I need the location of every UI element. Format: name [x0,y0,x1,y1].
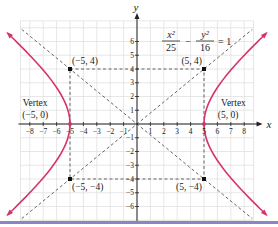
point-label-5-neg4: (5, −4) [176,182,202,193]
x-tick-label: −7 [39,127,47,136]
vertex-left-title: Vertex [23,98,48,108]
y-tick-label: 5 [130,51,134,60]
x-tick-label: 3 [175,127,179,136]
equation-x-numerator: x² [166,29,175,40]
x-tick-label: −6 [53,127,61,136]
x-tick-label: 1 [149,127,153,136]
bottom-divider [0,221,278,224]
y-tick-label: −5 [126,188,134,197]
x-tick-label: 4 [189,127,193,136]
y-tick-label: 2 [130,92,134,101]
point-label-5-4: (5, 4) [181,56,202,67]
corner-point [202,177,206,181]
x-tick-label: −2 [106,127,114,136]
x-tick-label: −5 [66,127,74,136]
vertex-left-coords: (−5, 0) [22,110,48,121]
x-tick-label: −8 [26,127,34,136]
equation-x-denominator: 25 [166,42,176,53]
hyperbola-figure: xy −8−7−6−5−4−3−2−112345678654321−1−2−3−… [0,0,278,227]
x-tick-label: 8 [242,127,246,136]
point-label-neg5-neg4: (−5, −4) [72,182,103,193]
equation-rhs: = 1 [218,36,231,47]
y-tick-label: −6 [126,202,134,211]
y-tick-label: −2 [126,147,134,156]
vertex-point [202,122,206,126]
y-tick-label: 1 [130,106,134,115]
x-tick-label: −3 [93,127,101,136]
point-label-neg5-4: (−5, 4) [72,56,98,67]
equation-y-numerator: y² [200,29,209,40]
y-tick-label: 4 [130,65,134,74]
y-tick-label: 3 [130,78,134,87]
vertex-point [68,122,72,126]
corner-point [68,177,72,181]
y-tick-label: −4 [126,175,134,184]
x-axis-arrow-icon [257,122,263,127]
corner-point [202,67,206,71]
y-axis-arrow-icon [135,13,140,19]
hyperbola-plot: xy −8−7−6−5−4−3−2−112345678654321−1−2−3−… [0,0,278,227]
y-tick-label: −1 [126,133,134,142]
x-axis-label: x [266,118,272,130]
equation-y-denominator: 16 [200,42,210,53]
x-tick-label: −4 [79,127,87,136]
equation-minus: − [185,36,191,47]
y-axis-label: y [133,1,139,13]
x-tick-label: 2 [162,127,166,136]
y-tick-label: 6 [130,37,134,46]
vertex-right-title: Vertex [221,98,246,108]
y-tick-label: −3 [126,161,134,170]
x-tick-label: 5 [202,127,206,136]
equation-label: x² 25 − y² 16 = 1 [162,29,231,53]
x-tick-label: 7 [229,127,233,136]
x-tick-label: 6 [216,127,220,136]
corner-point [68,67,72,71]
vertex-right-coords: (5, 0) [218,110,239,121]
